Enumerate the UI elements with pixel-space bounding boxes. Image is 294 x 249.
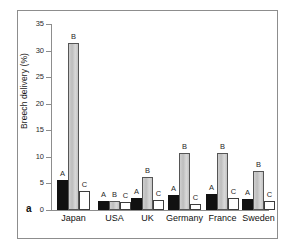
y-tick-mark [46,210,52,211]
y-tick-mark [46,51,52,52]
bar-france-c [228,198,239,210]
y-tick-label: 30 [24,47,44,55]
bar-usa-b [109,201,120,210]
y-tick-mark [46,77,52,78]
bar-sweden-a [242,199,253,210]
bar-label: B [139,167,156,175]
y-tick-label: 15 [24,126,44,134]
bar-france-b [217,153,228,210]
bar-france-a [206,194,217,210]
panel-letter: a [26,203,32,214]
y-tick-mark [46,157,52,158]
bar-germany-a [168,195,179,210]
bar-usa-c [120,202,131,210]
bar-label: B [65,33,82,41]
bar-uk-c [153,200,164,210]
y-tick-label: 5 [24,179,44,187]
bar-label: B [176,143,193,151]
y-tick-label: 20 [24,100,44,108]
bar-usa-a [98,201,109,210]
x-tick-label-sweden: Sweden [234,213,284,223]
y-axis-label: Breech delivery (%) [19,21,29,161]
y-tick-label: 35 [24,20,44,28]
y-tick-mark [46,130,52,131]
bar-label: B [214,143,231,151]
bar-japan-a [57,180,68,210]
bar-label: C [76,181,93,189]
bar-japan-c [79,191,90,210]
y-tick-mark [46,24,52,25]
bar-uk-a [131,198,142,210]
bar-label: B [250,161,267,169]
bar-label: C [187,194,204,202]
y-tick-label: 10 [24,153,44,161]
figure-panel: Breech delivery (%) 05101520253035 ABCAB… [0,0,294,249]
bar-label: C [261,191,278,199]
y-tick-label: 25 [24,73,44,81]
y-tick-mark [46,104,52,105]
y-tick-mark [46,183,52,184]
bar-sweden-c [264,201,275,210]
bar-germany-c [190,204,201,210]
x-axis-line [51,210,269,211]
